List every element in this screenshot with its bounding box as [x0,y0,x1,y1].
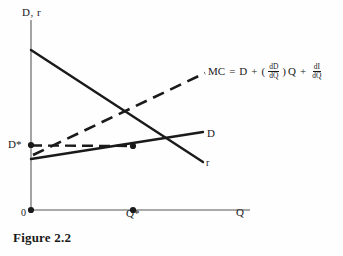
origin-label: 0 [21,208,26,218]
origin-dot [28,207,34,213]
equation-fraction-dd-dq: dD dQ [268,63,279,80]
figure-2-2: D, r Q 0 Q* D* D r MC = D + ( dD dQ ) Q … [0,0,343,256]
equation-lhs: MC [208,65,225,77]
plot-canvas [0,0,343,256]
fraction-denominator: dQ [311,72,322,80]
x-tick-label-qstar: Q* [126,208,139,219]
equation-equals: = [229,65,235,77]
figure-caption: Figure 2.2 [13,230,71,246]
curve-label-r: r [206,158,209,168]
equation-plus-2: + [300,65,306,77]
y-axis-label: D, r [22,7,41,18]
y-tick-label-dstar: D* [8,139,21,150]
equation-plus-1: + [251,65,257,77]
mc-equation: MC = D + ( dD dQ ) Q + dI dQ [208,63,323,80]
fraction-denominator: dQ [268,72,279,80]
x-axis-label: Q [236,207,244,218]
dstar-dot [28,142,34,148]
equation-term-d: D [239,65,247,77]
curve-mc [33,73,205,155]
curve-label-d: D [207,128,215,139]
dstar-guide-line [31,146,134,147]
equation-term-q: Q [288,65,296,77]
equation-close-paren: ) [282,65,286,77]
equation-fraction-di-dq: dI dQ [311,63,322,80]
equation-open-paren: ( [262,65,266,77]
dstar-on-demand-dot [130,143,136,149]
